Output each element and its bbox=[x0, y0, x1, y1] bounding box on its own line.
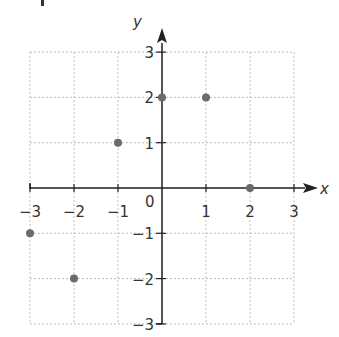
y-axis-label: y bbox=[132, 13, 143, 31]
origin-label: 0 bbox=[145, 193, 155, 211]
x-tick-label: −2 bbox=[63, 203, 85, 221]
y-axis-arrow-icon bbox=[157, 28, 167, 43]
x-tick-label: −3 bbox=[19, 203, 41, 221]
data-point bbox=[202, 93, 210, 101]
y-tick-label: 2 bbox=[144, 89, 154, 107]
y-tick-label: 1 bbox=[144, 135, 154, 153]
x-tick-label: −1 bbox=[107, 203, 129, 221]
data-point bbox=[26, 229, 34, 237]
x-tick-label: 1 bbox=[201, 203, 211, 221]
y-tick-label: 3 bbox=[144, 44, 154, 62]
x-tick-label: 3 bbox=[289, 203, 299, 221]
y-tick-label: −1 bbox=[132, 225, 154, 243]
data-point bbox=[246, 184, 254, 192]
x-tick-label: 2 bbox=[245, 203, 255, 221]
tick-labels: −3−2−1123321−1−2−3 bbox=[19, 44, 299, 334]
cropped-glyph bbox=[41, 0, 44, 6]
data-point bbox=[114, 139, 122, 147]
coordinate-plane: −3−2−1123321−1−2−3 x y 0 bbox=[0, 0, 339, 337]
y-tick-label: −2 bbox=[132, 271, 154, 289]
x-axis-label: x bbox=[319, 180, 329, 198]
data-point bbox=[70, 275, 78, 283]
data-point bbox=[158, 93, 166, 101]
y-tick-label: −3 bbox=[132, 316, 154, 334]
x-axis-arrow-icon bbox=[303, 183, 318, 193]
